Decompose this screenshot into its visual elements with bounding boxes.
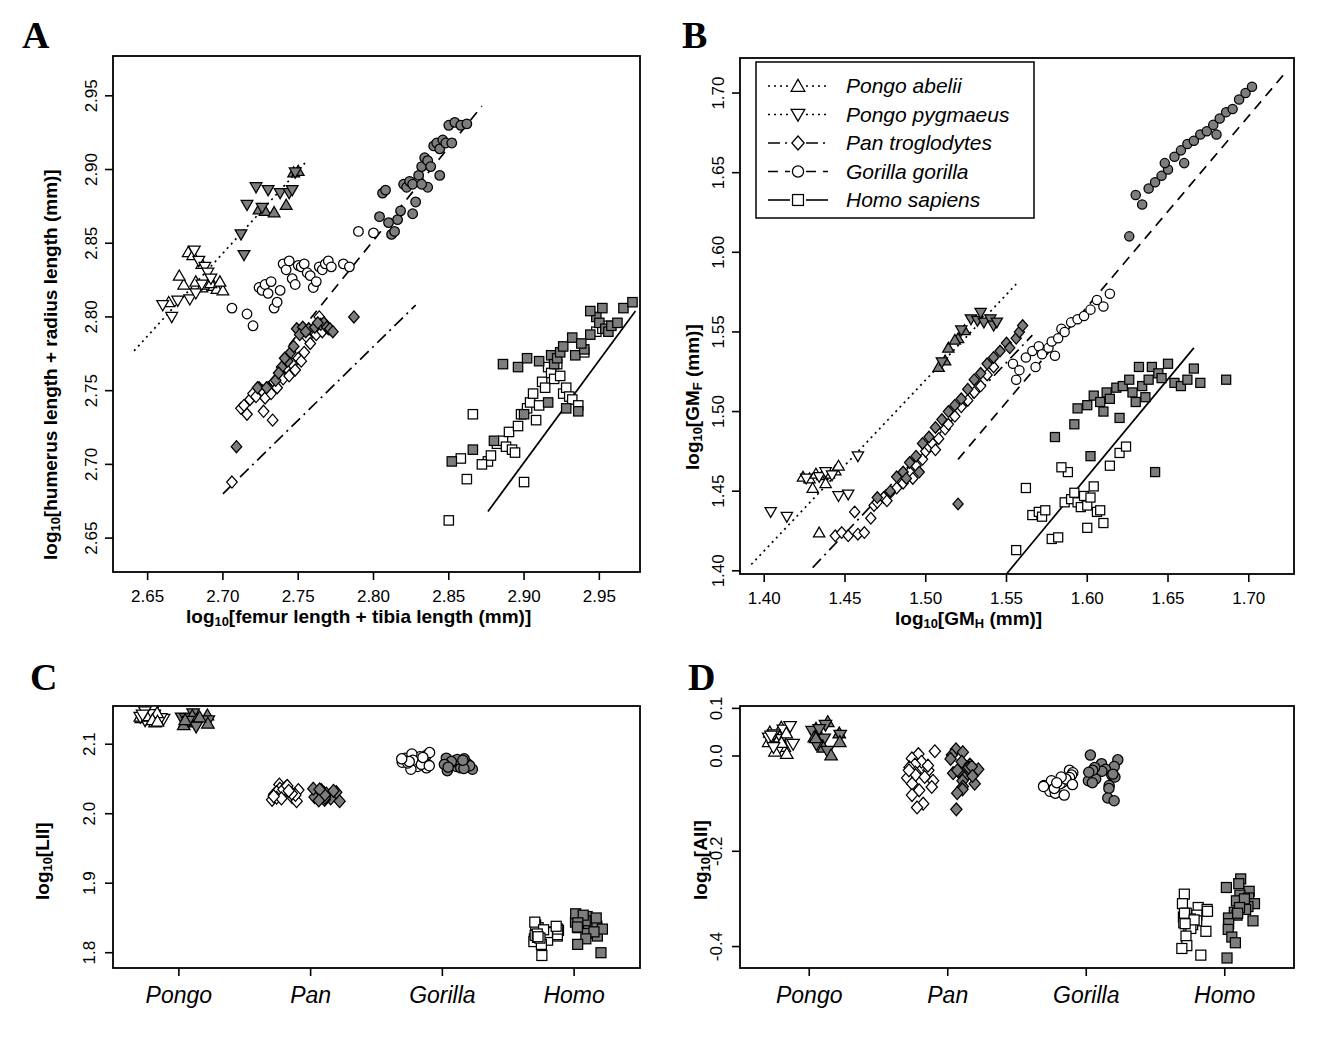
data-point [559, 342, 568, 351]
data-point [813, 527, 824, 537]
panel-b-x-axis-title: log10[GMH (mm)] [895, 608, 1042, 631]
data-point [1050, 433, 1059, 442]
data-point [266, 277, 276, 287]
x-tick-label: 1.50 [909, 589, 942, 608]
data-point [1096, 397, 1105, 406]
data-point [447, 138, 457, 148]
data-point [591, 913, 601, 923]
panel-a-y-axis-title: log10[humerus length + radius length (mm… [40, 169, 63, 560]
data-point [929, 745, 940, 758]
data-point [173, 270, 185, 280]
data-point [551, 921, 561, 931]
data-point [1141, 393, 1150, 402]
data-point [628, 298, 637, 307]
data-point [531, 415, 540, 424]
y-tick-label: 1.45 [709, 475, 728, 508]
data-point [1041, 506, 1050, 515]
figure-root: A log10[humerus length + radius length (… [0, 0, 1318, 1044]
data-point [1083, 401, 1092, 410]
data-point [384, 218, 394, 228]
y-tick-label: 1.9 [80, 871, 99, 895]
data-point [1054, 533, 1063, 542]
data-point [1073, 404, 1082, 413]
data-point [1196, 378, 1205, 387]
x-tick-label: 1.40 [748, 589, 781, 608]
data-point [281, 265, 291, 275]
data-point [1057, 463, 1066, 472]
data-point [1234, 879, 1244, 889]
data-point [1050, 351, 1059, 360]
data-point [424, 761, 434, 771]
data-point [1160, 158, 1169, 167]
data-point [1015, 366, 1024, 375]
data-point [571, 351, 580, 360]
data-point [1099, 302, 1108, 311]
data-point [807, 482, 818, 492]
data-point [498, 359, 507, 368]
data-point [258, 405, 269, 417]
y-tick-label: 2.65 [82, 522, 101, 555]
data-point [852, 452, 863, 462]
data-point [444, 516, 453, 525]
x-tick-label: 2.70 [206, 587, 239, 606]
panel-d-plot: 0.10.0-0.2-0.4PongoPanGorillaHomo [660, 650, 1318, 1044]
y-tick-label: 0.0 [707, 744, 726, 768]
data-point [299, 259, 309, 269]
data-point [477, 460, 486, 469]
data-point [1179, 889, 1189, 899]
data-point [1060, 327, 1069, 336]
data-point [267, 414, 278, 426]
data-point [1203, 906, 1213, 916]
data-point [1084, 767, 1094, 777]
data-point [619, 303, 628, 312]
data-point [540, 383, 549, 392]
data-point [1181, 931, 1191, 941]
y-tick-label: -0.4 [707, 932, 726, 961]
data-point [1105, 289, 1114, 298]
data-point [231, 441, 242, 453]
data-point [504, 427, 513, 436]
data-point [573, 939, 583, 949]
data-point [543, 398, 552, 407]
data-point [1086, 493, 1095, 502]
data-point [1222, 375, 1231, 384]
data-point [843, 490, 854, 500]
data-point [345, 262, 355, 272]
data-point [792, 166, 803, 177]
data-point [1108, 769, 1118, 779]
data-point [537, 950, 547, 960]
data-point [284, 256, 294, 266]
data-point [1179, 908, 1189, 918]
data-point [1086, 305, 1095, 314]
data-point [1163, 359, 1172, 368]
panel-c-plot: 1.81.92.02.1PongoPanGorillaHomo [0, 650, 660, 1044]
data-point [1021, 483, 1030, 492]
data-point [227, 303, 237, 313]
panel-a-plot: 2.652.702.752.802.852.902.952.652.702.75… [0, 0, 660, 650]
category-label-homo: Homo [543, 982, 605, 1008]
data-point [850, 506, 860, 518]
data-point [435, 171, 445, 181]
data-point [577, 339, 586, 348]
data-point [1144, 375, 1153, 384]
data-point [953, 498, 963, 510]
category-label-gorilla: Gorilla [409, 982, 475, 1008]
data-point [250, 183, 262, 193]
panel-d-letter: D [688, 658, 715, 696]
data-point [1059, 790, 1069, 800]
category-label-homo: Homo [1194, 982, 1256, 1008]
data-point [408, 179, 418, 189]
data-point [443, 762, 453, 772]
x-tick-label: 2.90 [508, 587, 541, 606]
data-point [562, 404, 571, 413]
data-point [1038, 781, 1048, 791]
data-point [1212, 130, 1221, 139]
data-point [272, 297, 282, 307]
legend-label-pongo_abelii: Pongo abelii [846, 74, 963, 97]
data-point [574, 407, 583, 416]
panel-b: B log10[GMF (mm)] log10[GMH (mm)] 1.401.… [660, 0, 1318, 650]
y-tick-label: 1.40 [709, 554, 728, 587]
y-tick-label: 2.1 [80, 732, 99, 756]
x-tick-label: 2.80 [357, 587, 390, 606]
category-label-pan: Pan [290, 982, 331, 1008]
